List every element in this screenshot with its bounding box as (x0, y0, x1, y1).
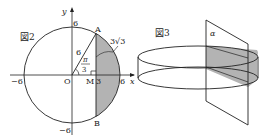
point-m-label: M (86, 77, 94, 86)
figure-3-title: 図3 (155, 28, 170, 38)
x-axis-label: x (130, 77, 135, 86)
figure-3: 図3 α (138, 20, 258, 125)
tick-x-pos: 6 (120, 77, 125, 86)
tick-x-neg: −6 (11, 77, 23, 86)
angle-denominator: 3 (82, 66, 86, 74)
plane-label: α (210, 29, 216, 38)
label-leader (113, 46, 118, 52)
figures-canvas: 図2 y x 6 −6 −6 6 O M 3 A B 6 π 3 3√3 図3 … (0, 0, 271, 138)
right-angle-mark (91, 71, 96, 75)
segment-length-label: 3√3 (110, 37, 125, 46)
point-b-label: B (94, 119, 100, 128)
figure-2-title: 図2 (20, 32, 35, 42)
point-a-label: A (94, 25, 101, 34)
tick-y-pos: 6 (73, 19, 78, 28)
y-axis-arrow-icon (70, 7, 74, 12)
origin-label: O (64, 77, 71, 86)
angle-arc (76, 69, 80, 75)
figure-2: 図2 y x 6 −6 −6 6 O M 3 A B 6 π 3 3√3 (10, 7, 135, 135)
angle-numerator: π (82, 56, 88, 64)
y-axis-label: y (61, 7, 67, 16)
radius-label: 6 (76, 48, 81, 57)
tick-m-label: 3 (96, 77, 101, 86)
tick-y-neg: −6 (59, 126, 71, 135)
